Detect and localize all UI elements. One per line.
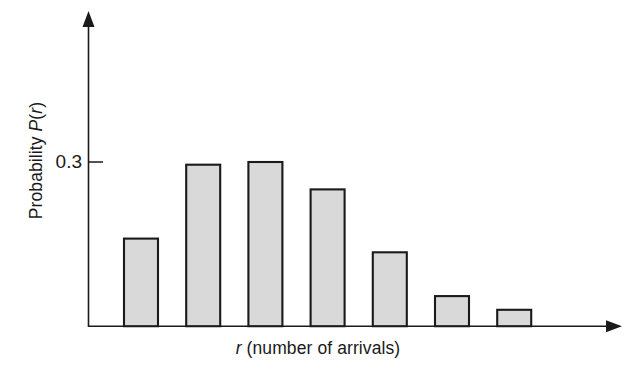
- y-axis-tick-label-0: 0.3: [56, 151, 82, 172]
- y-axis-title: Probability P(r): [26, 51, 47, 271]
- chart-plot-area: 0.3: [0, 0, 636, 377]
- y-axis-title-variable: r: [26, 108, 46, 114]
- bar-r-5: [435, 296, 469, 326]
- x-axis-arrow-icon: [606, 320, 622, 332]
- y-axis-arrow-icon: [83, 11, 95, 27]
- bar-r-0: [124, 239, 158, 327]
- x-axis-title-rest: (number of arrivals): [242, 338, 401, 358]
- bar-r-3: [311, 189, 345, 326]
- bar-r-1: [186, 165, 220, 327]
- y-axis-title-prefix: Probability: [26, 131, 46, 219]
- y-axis-title-symbol: P: [26, 120, 46, 132]
- bar-r-6: [497, 310, 531, 326]
- bar-r-2: [248, 162, 282, 326]
- y-axis-title-suffix: (r): [26, 102, 46, 120]
- bar-r-4: [373, 252, 407, 326]
- x-axis-title: r (number of arrivals): [0, 338, 636, 359]
- chart-figure: 0.3 r (number of arrivals) Probability P…: [0, 0, 636, 377]
